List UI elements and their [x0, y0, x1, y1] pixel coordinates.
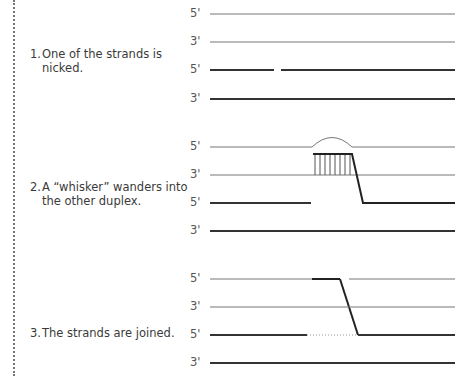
base-pair-hatching — [315, 154, 350, 175]
diagram-3-joined — [210, 279, 455, 363]
diagram-1-nicked — [210, 14, 455, 99]
dna-strand-diagram — [0, 0, 460, 386]
diagram-2-whisker — [210, 138, 455, 232]
displaced-loop — [312, 138, 352, 148]
whisker-strand — [313, 154, 455, 203]
